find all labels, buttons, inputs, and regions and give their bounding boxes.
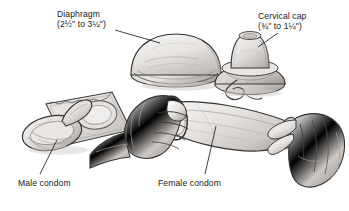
label-diaphragm-size: (2½" to 3¼") bbox=[57, 19, 106, 29]
right-hand bbox=[268, 114, 345, 187]
label-female-condom-name: Female condom bbox=[158, 178, 221, 188]
label-cervical-cap-name: Cervical cap bbox=[258, 11, 306, 21]
diaphragm-illustration bbox=[131, 34, 221, 91]
label-diaphragm-name: Diaphragm bbox=[57, 9, 106, 19]
label-cervical-cap-size: (¾" to 1¼") bbox=[258, 21, 306, 31]
contraceptive-devices-illustration: Diaphragm (2½" to 3¼") Cervical cap (¾" … bbox=[0, 0, 349, 211]
label-female-condom: Female condom bbox=[158, 178, 221, 188]
label-diaphragm: Diaphragm (2½" to 3¼") bbox=[57, 9, 106, 30]
female-condom-illustration bbox=[90, 94, 345, 187]
cervical-cap-illustration bbox=[215, 32, 285, 100]
label-male-condom-name: Male condom bbox=[18, 178, 71, 188]
label-male-condom: Male condom bbox=[18, 178, 71, 188]
leader-diaphragm bbox=[115, 30, 160, 43]
label-cervical-cap: Cervical cap (¾" to 1¼") bbox=[258, 11, 306, 32]
